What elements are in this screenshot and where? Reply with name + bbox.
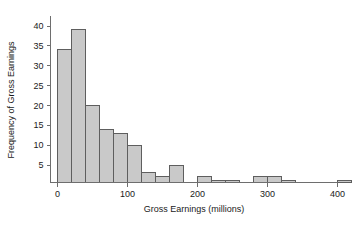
histogram-bar: [128, 145, 142, 182]
histogram-bar: [170, 165, 184, 183]
histogram-bar: [338, 181, 352, 183]
y-tick-label: 30: [33, 61, 43, 71]
y-tick-label: 5: [38, 160, 43, 170]
x-tick-label: 0: [55, 189, 60, 199]
y-tick-label: 35: [33, 41, 43, 51]
y-tick-label: 20: [33, 101, 43, 111]
histogram-bar: [198, 177, 212, 183]
histogram-figure: 510152025303540 0100200300400 Frequency …: [0, 0, 352, 233]
y-tick-label: 40: [33, 21, 43, 31]
figure-background: [0, 0, 352, 233]
histogram-bar: [58, 50, 72, 183]
histogram-bar: [72, 30, 86, 183]
histogram-bar: [114, 133, 128, 182]
histogram-bar: [254, 177, 268, 183]
y-axis-title: Frequency of Gross Earnings: [6, 41, 16, 159]
x-axis-title: Gross Earnings (millions): [144, 204, 245, 214]
gross-earnings-histogram: 510152025303540 0100200300400 Frequency …: [0, 0, 352, 233]
x-tick-label: 100: [120, 189, 135, 199]
histogram-bar: [86, 105, 100, 182]
y-tick-label: 25: [33, 81, 43, 91]
histogram-bar: [100, 129, 114, 182]
histogram-bar: [156, 177, 170, 183]
histogram-bar: [142, 173, 156, 183]
x-tick-label: 300: [260, 189, 275, 199]
x-tick-label: 200: [190, 189, 205, 199]
y-tick-label: 10: [33, 140, 43, 150]
x-tick-label: 400: [330, 189, 345, 199]
y-tick-label: 15: [33, 120, 43, 130]
histogram-bar: [268, 177, 282, 183]
